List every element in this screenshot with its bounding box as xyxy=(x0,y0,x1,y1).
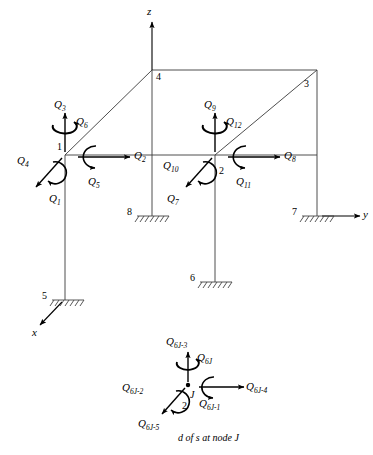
label-q11: Q11 xyxy=(236,176,251,190)
figure-caption: d of s at node J xyxy=(178,433,239,443)
label-q11-sym: Q xyxy=(236,175,244,187)
label-q6-sub: 6 xyxy=(84,121,88,130)
support-7 xyxy=(300,216,334,222)
label-q5-sym: Q xyxy=(88,175,96,187)
label-q6j-3: Q6J-3 xyxy=(166,336,187,350)
label-q6j-2-sub: 6J-2 xyxy=(130,387,143,396)
label-q10-sym: Q xyxy=(163,159,171,171)
label-q2-sub: 2 xyxy=(142,155,146,164)
label-q8-sym: Q xyxy=(284,149,292,161)
label-q6j-sub: 6J xyxy=(205,357,212,366)
arrow-q4-moment xyxy=(48,162,66,184)
x-axis-label: x xyxy=(32,327,37,338)
label-q9-sym: Q xyxy=(204,98,212,110)
label-q4-sub: 4 xyxy=(25,160,29,169)
label-q6j-5-sub: 6J-5 xyxy=(146,423,159,432)
support-6 xyxy=(198,282,232,288)
supports xyxy=(50,216,334,306)
node-label-1: 1 xyxy=(57,142,62,152)
node-label-6: 6 xyxy=(190,273,195,283)
label-q6j-3-sym: Q xyxy=(166,335,174,347)
label-q3: Q3 xyxy=(54,99,66,113)
label-q6j-1: Q6J-1 xyxy=(199,398,220,412)
label-q6j: Q6J xyxy=(197,352,212,366)
support-5 xyxy=(50,300,84,306)
label-q6j-4-sub: 6J-4 xyxy=(254,386,267,395)
support-8 xyxy=(135,216,169,222)
node-label-2: 2 xyxy=(219,166,224,176)
node-label-8: 8 xyxy=(127,207,132,217)
label-q2-sym: Q xyxy=(134,149,142,161)
label-q9: Q9 xyxy=(204,99,216,113)
member-1-4 xyxy=(65,70,152,155)
label-q8: Q8 xyxy=(284,150,296,164)
node-j-dot xyxy=(186,383,190,387)
member-3-2 xyxy=(215,70,317,155)
label-q1-sub: 1 xyxy=(57,198,61,207)
label-q6j-2-sym: Q xyxy=(122,381,130,393)
label-q9-sub: 9 xyxy=(212,104,216,113)
label-q4: Q4 xyxy=(17,155,29,169)
label-q3-sym: Q xyxy=(54,98,62,110)
detail-node-label: J xyxy=(190,390,194,400)
arrow-q10-moment xyxy=(198,162,216,184)
global-axes xyxy=(40,22,360,325)
label-q6j-1-sym: Q xyxy=(199,397,207,409)
label-q1: Q1 xyxy=(49,193,61,207)
label-q6j-5: Q6J-5 xyxy=(138,418,159,432)
label-q6j-3-sub: 6J-3 xyxy=(174,341,187,350)
node-label-3: 3 xyxy=(304,79,309,89)
x-axis-arrow xyxy=(40,302,62,325)
label-q6j-4: Q6J-4 xyxy=(246,381,267,395)
label-q11-sub: 11 xyxy=(244,181,251,190)
figure-canvas: z y x 1 2 3 4 5 6 7 8 Q1 Q2 Q3 Q4 Q5 Q6 … xyxy=(0,0,373,455)
label-q10-sub: 10 xyxy=(171,165,179,174)
y-axis-label: y xyxy=(363,209,368,220)
label-q12: Q12 xyxy=(226,116,241,130)
detail-aux-label: 2 xyxy=(182,401,187,411)
label-q6j-4-sym: Q xyxy=(246,380,254,392)
label-q6j-sym: Q xyxy=(197,351,205,363)
label-q2: Q2 xyxy=(134,150,146,164)
label-q3-sub: 3 xyxy=(62,104,66,113)
label-q4-sym: Q xyxy=(17,154,25,166)
label-q5-sub: 5 xyxy=(96,181,100,190)
node-label-7: 7 xyxy=(292,207,297,217)
frame-drawing xyxy=(0,0,373,455)
label-q6-sym: Q xyxy=(76,115,84,127)
label-q7-sym: Q xyxy=(167,192,175,204)
label-q12-sym: Q xyxy=(226,115,234,127)
label-q10: Q10 xyxy=(163,160,178,174)
label-q7-sub: 7 xyxy=(175,198,179,207)
label-q1-sym: Q xyxy=(49,192,57,204)
label-q6j-1-sub: 6J-1 xyxy=(207,403,220,412)
node-label-4: 4 xyxy=(156,72,161,82)
label-q12-sub: 12 xyxy=(234,121,242,130)
z-axis-label: z xyxy=(147,6,151,17)
label-q5: Q5 xyxy=(88,176,100,190)
frame-members xyxy=(65,70,317,300)
label-q6j-5-sym: Q xyxy=(138,417,146,429)
label-q8-sub: 8 xyxy=(292,155,296,164)
label-q7: Q7 xyxy=(167,193,179,207)
label-q6j-2: Q6J-2 xyxy=(122,382,143,396)
node-label-5: 5 xyxy=(42,291,47,301)
label-q6: Q6 xyxy=(76,116,88,130)
